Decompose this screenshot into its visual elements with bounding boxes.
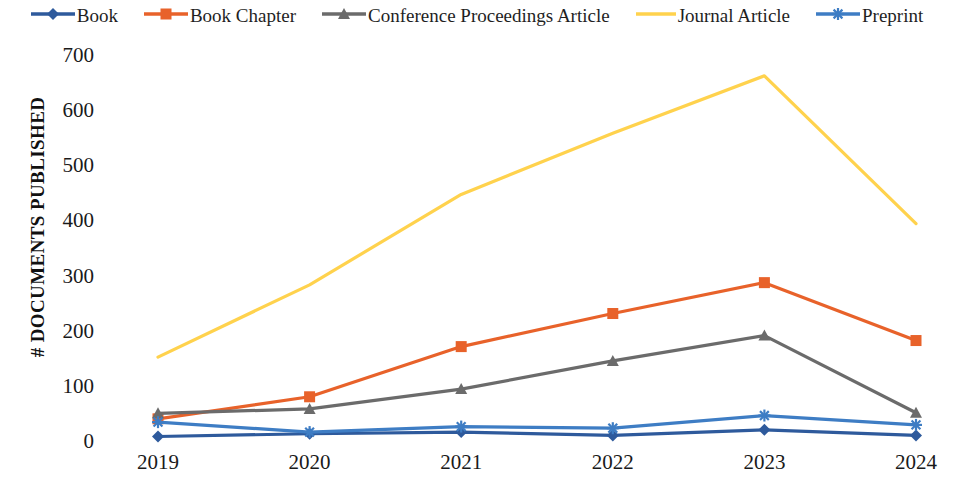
data-point-marker xyxy=(758,410,770,422)
series-line xyxy=(158,76,916,357)
data-point-marker xyxy=(455,421,467,433)
series-journal-article xyxy=(158,76,916,357)
data-point-marker xyxy=(759,277,770,288)
series-book-chapter xyxy=(153,277,922,424)
data-point-marker xyxy=(304,391,315,402)
data-point-marker xyxy=(304,426,316,438)
data-point-marker xyxy=(910,429,922,441)
series-line xyxy=(158,416,916,433)
plot-area xyxy=(0,0,954,482)
line-chart: BookBook ChapterConference Proceedings A… xyxy=(0,0,954,482)
data-point-marker xyxy=(456,341,467,352)
data-point-marker xyxy=(911,335,922,346)
data-point-marker xyxy=(607,308,618,319)
series-conference-proceedings-article xyxy=(152,330,922,419)
data-point-marker xyxy=(910,419,922,431)
data-point-marker xyxy=(607,422,619,434)
data-point-marker xyxy=(758,424,770,436)
data-point-marker xyxy=(152,416,164,428)
data-point-marker xyxy=(152,430,164,442)
